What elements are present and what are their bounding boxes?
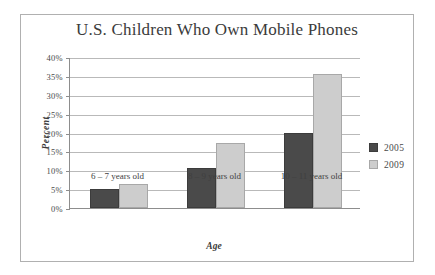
bar-2005-0[interactable] [90, 189, 119, 208]
y-axis-tick-label: 40% [47, 53, 63, 63]
y-axis-tick [66, 152, 70, 153]
legend-swatch-icon [369, 160, 378, 169]
y-axis-tick-label: 30% [47, 91, 63, 101]
y-axis-tick-label: 25% [47, 110, 63, 120]
y-axis-tick [66, 96, 70, 97]
bar-group [284, 58, 342, 208]
chart-title: U.S. Children Who Own Mobile Phones [21, 20, 413, 40]
bar-group [187, 58, 245, 208]
legend-label: 2005 [384, 143, 404, 153]
chart-legend: 20052009 [369, 139, 423, 173]
plot-area: 0%5%10%15%20%25%30%35%40% [69, 58, 360, 209]
y-axis-tick [66, 77, 70, 78]
y-axis-tick [66, 134, 70, 135]
x-axis-tick-label: 10 – 11 years old [281, 171, 343, 181]
bar-group [90, 58, 148, 208]
y-axis-tick [66, 171, 70, 172]
legend-item-2009[interactable]: 2009 [369, 156, 423, 173]
x-axis-tick-label: 6 – 7 years old [91, 171, 144, 181]
legend-item-2005[interactable]: 2005 [369, 139, 423, 156]
y-axis-tick-label: 35% [47, 72, 63, 82]
x-axis-tick-label: 8 – 9 years old [188, 171, 241, 181]
legend-label: 2009 [384, 160, 404, 170]
y-axis-tick-label: 10% [47, 166, 63, 176]
x-axis-title: Age [69, 241, 359, 251]
y-axis-tick [66, 190, 70, 191]
chart-figure: U.S. Children Who Own Mobile Phones Perc… [20, 14, 414, 262]
legend-swatch-icon [369, 143, 378, 152]
y-axis-tick-label: 15% [47, 147, 63, 157]
y-axis-tick-label: 0% [51, 204, 63, 214]
y-axis-tick [66, 58, 70, 59]
bar-2009-0[interactable] [119, 184, 148, 208]
y-axis-tick-label: 20% [47, 129, 63, 139]
bar-2009-2[interactable] [313, 74, 342, 208]
y-axis-tick [66, 209, 70, 210]
y-axis-tick [66, 115, 70, 116]
y-axis-tick-label: 5% [51, 185, 63, 195]
